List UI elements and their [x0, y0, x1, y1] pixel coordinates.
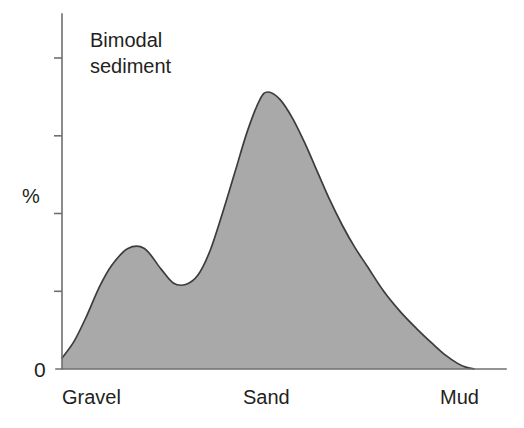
chart-title-line2: sediment	[90, 55, 172, 77]
x-axis-label-gravel: Gravel	[62, 386, 121, 408]
y-axis-zero-label: 0	[34, 358, 46, 381]
y-axis-label: %	[22, 185, 40, 207]
chart-title-line1: Bimodal	[90, 29, 162, 51]
bimodal-sediment-area-chart: Bimodal sediment % 0 Gravel Sand Mud	[0, 0, 524, 428]
x-axis-label-mud: Mud	[440, 386, 479, 408]
chart-figure: Bimodal sediment % 0 Gravel Sand Mud	[0, 0, 524, 428]
x-axis-label-sand: Sand	[243, 386, 290, 408]
